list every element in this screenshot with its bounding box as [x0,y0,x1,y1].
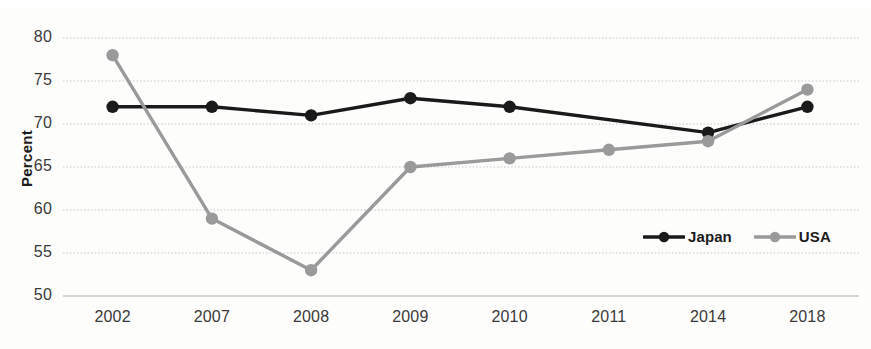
x-tick-label: 2007 [177,308,247,326]
y-tick-label: 75 [22,71,52,89]
data-point-japan-2002 [106,101,118,113]
circle-marker [754,230,796,244]
x-tick-label: 2008 [276,308,346,326]
x-tick-label: 2010 [475,308,545,326]
legend-label: USA [799,228,831,245]
legend-label: Japan [688,228,732,245]
x-tick-label: 2002 [78,308,148,326]
chart-legend: JapanUSA [643,228,831,245]
y-axis-title: Percent [18,114,35,204]
legend-item-usa[interactable]: USA [754,228,831,245]
x-tick-label: 2014 [673,308,743,326]
data-point-usa-2007 [206,212,218,224]
data-point-japan-2007 [206,101,218,113]
data-point-usa-2008 [305,264,317,276]
legend-item-japan[interactable]: Japan [643,228,732,245]
data-point-usa-2010 [503,152,515,164]
data-point-japan-2008 [305,109,317,121]
circle-marker [643,230,685,244]
data-point-japan-2010 [503,101,515,113]
x-tick-label: 2018 [772,308,842,326]
y-tick-label: 80 [22,28,52,46]
data-point-usa-2018 [801,83,813,95]
line-chart: 80757065605550 2002200720082009201020112… [0,0,871,349]
y-tick-label: 50 [22,286,52,304]
x-tick-label: 2011 [574,308,644,326]
y-tick-label: 55 [22,243,52,261]
data-point-japan-2018 [801,101,813,113]
plot-area [0,0,871,349]
x-tick-label: 2009 [375,308,445,326]
data-point-usa-2009 [404,161,416,173]
data-point-japan-2009 [404,92,416,104]
data-point-usa-2014 [702,135,714,147]
data-point-usa-2011 [603,144,615,156]
data-point-usa-2002 [106,49,118,61]
